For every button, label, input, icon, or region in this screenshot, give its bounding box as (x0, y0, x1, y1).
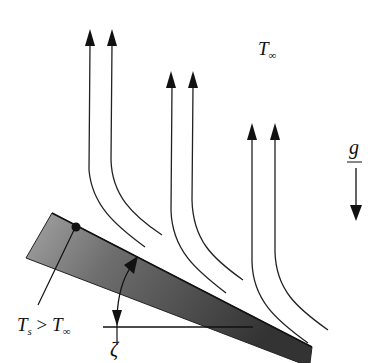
surface-condition-label: Ts > T∞ (17, 314, 71, 337)
ambient-temperature-label: T∞ (258, 38, 276, 61)
streamline (89, 44, 145, 247)
diagram-canvas: T∞ g Ts > T∞ ζ (0, 0, 378, 363)
gravity-symbol: g (349, 136, 359, 158)
streamline-pair-2 (166, 71, 243, 293)
label-subscript: ∞ (269, 49, 277, 61)
gravity-label: g (349, 136, 359, 159)
surface-point-dot (72, 223, 81, 232)
angle-symbol: ζ (110, 338, 118, 360)
arrowhead-up-icon (85, 29, 95, 46)
streamline (171, 86, 226, 293)
streamline (275, 138, 328, 330)
arrowhead-up-icon (270, 123, 280, 140)
gravity-arrow (347, 162, 362, 221)
angle-arrowhead-down (112, 310, 122, 326)
arrowhead-up-icon (107, 29, 117, 46)
streamline-pair-1 (85, 29, 162, 247)
arrowhead-up-icon (247, 123, 257, 140)
heated-plate (26, 213, 312, 363)
greater-than-operator: > (37, 314, 48, 335)
streamline-pair-3 (247, 123, 328, 343)
arrowhead-up-icon (188, 71, 198, 88)
label-main: T (52, 314, 63, 335)
streamline (252, 138, 308, 343)
label-main: T (17, 314, 28, 335)
label-main: T (258, 38, 269, 59)
diagram-svg (0, 0, 378, 363)
label-subscript: s (28, 325, 32, 337)
arrow-down-icon (350, 205, 362, 221)
streamline (192, 86, 243, 280)
label-subscript: ∞ (63, 325, 71, 337)
arrowhead-up-icon (166, 71, 176, 88)
angle-label: ζ (110, 338, 118, 361)
streamline (111, 44, 162, 235)
